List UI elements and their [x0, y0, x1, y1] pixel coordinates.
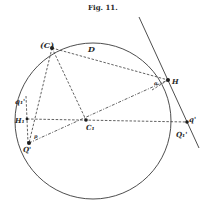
line-C-H	[52, 48, 168, 80]
point-H1	[26, 118, 29, 121]
label-q1: q₁'	[15, 97, 25, 106]
label-alpha: α	[154, 80, 158, 86]
line-Qprime-H	[29, 80, 168, 143]
label-H1: H₁	[14, 116, 25, 125]
label-q-prime: q'	[189, 115, 196, 124]
line-C-Qprime	[29, 48, 52, 143]
label-Q1-prime: Q₁'	[176, 130, 187, 139]
figure-11-diagram: Fig. 11. (C) D H α q' Q₁' C₁ H₁ q₁' Q' p	[0, 0, 212, 207]
label-p: p	[34, 133, 38, 140]
label-D: D	[87, 44, 95, 54]
label-H: H	[171, 77, 179, 86]
label-C: (C)	[40, 40, 54, 50]
point-C1	[84, 118, 88, 122]
tangent-line	[139, 17, 199, 148]
point-H	[166, 78, 170, 82]
line-C-C1	[52, 48, 86, 120]
figure-title: Fig. 11.	[88, 3, 118, 12]
line-H1-q	[27, 119, 187, 122]
label-Q-prime: Q'	[23, 145, 31, 154]
label-C1: C₁	[86, 123, 95, 132]
